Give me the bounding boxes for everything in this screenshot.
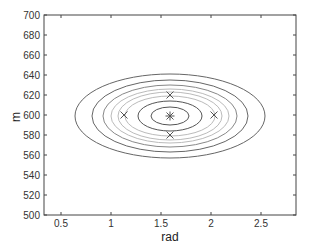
x-marker	[167, 92, 174, 99]
y-tick-label: 640	[23, 70, 40, 81]
y-tick-label: 500	[23, 210, 40, 221]
x-axis-label: rad	[161, 230, 178, 244]
center-asterisk-marker	[166, 112, 175, 121]
y-tick-label: 700	[23, 10, 40, 21]
y-axis-ticks: 500520540560580600620640660680700	[23, 10, 296, 221]
y-tick-label: 540	[23, 170, 40, 181]
y-tick-label: 520	[23, 190, 40, 201]
x-marker	[167, 132, 174, 139]
y-axis-label: m	[9, 112, 23, 122]
y-tick-label: 560	[23, 150, 40, 161]
x-tick-label: 2	[208, 218, 214, 229]
x-tick-label: 1.5	[154, 218, 168, 229]
y-tick-label: 600	[23, 110, 40, 121]
x-marker	[121, 112, 128, 119]
contour-chart: 0.511.522.5 5005205405605806006206406606…	[0, 0, 310, 252]
y-tick-label: 680	[23, 30, 40, 41]
y-tick-label: 580	[23, 130, 40, 141]
x-tick-label: 0.5	[54, 218, 68, 229]
x-tick-label: 2.5	[254, 218, 268, 229]
y-tick-label: 620	[23, 90, 40, 101]
x-tick-label: 1	[108, 218, 114, 229]
y-tick-label: 660	[23, 50, 40, 61]
